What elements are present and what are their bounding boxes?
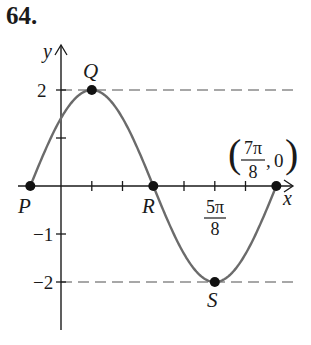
y-tick-label-2: 2	[37, 80, 47, 101]
label-s: S	[207, 288, 218, 312]
y-axis-label: y	[41, 40, 52, 63]
annotation-7pi-8: ( 7π 8 , 0 )	[228, 131, 298, 182]
svg-text:,: ,	[266, 150, 271, 171]
svg-text:7π: 7π	[244, 138, 262, 158]
y-tick-label-neg2: −2	[33, 272, 53, 293]
x-axis-label: x	[282, 187, 292, 209]
svg-text:(: (	[228, 131, 241, 176]
svg-text:5π: 5π	[206, 197, 224, 217]
point-q	[87, 85, 97, 95]
x-tick-label-5pi-8: 5π 8	[204, 197, 226, 239]
point-p	[25, 181, 35, 191]
svg-text:): )	[285, 131, 298, 176]
svg-text:0: 0	[274, 150, 284, 171]
sine-graph: y x 2 −1 −2 P Q R S 5π 8 ( 7π 8 , 0 )	[0, 0, 311, 345]
y-tick-label-neg1: −1	[33, 224, 53, 245]
point-r	[148, 181, 158, 191]
svg-text:8: 8	[249, 162, 258, 182]
point-s	[210, 277, 220, 287]
label-q: Q	[83, 59, 98, 83]
svg-text:8: 8	[211, 219, 220, 239]
label-r: R	[141, 194, 155, 218]
label-p: P	[17, 194, 31, 218]
point-end	[271, 181, 281, 191]
